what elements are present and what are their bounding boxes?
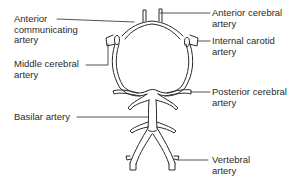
label-line: Posterior cerebral — [212, 87, 287, 98]
label-line: Basilar artery — [14, 112, 70, 123]
circle-ring — [112, 21, 192, 96]
vertebral-arteries — [126, 156, 179, 170]
label-anterior-communicating-artery: Anterior communicating artery — [14, 14, 78, 46]
label-basilar-artery: Basilar artery — [14, 112, 70, 123]
label-internal-carotid-artery: Internal carotid artery — [212, 36, 275, 57]
label-line: artery — [14, 70, 79, 81]
label-line: Anterior — [14, 14, 78, 25]
label-line: Vertebral — [212, 155, 250, 166]
internal-carotid-arteries — [106, 35, 198, 47]
label-line: Internal carotid — [212, 36, 275, 47]
label-line: artery — [212, 47, 275, 58]
circle-of-willis-diagram: Anterior communicating artery Middle cer… — [0, 0, 297, 188]
label-line: artery — [212, 166, 250, 177]
label-posterior-cerebral-artery: Posterior cerebral artery — [212, 87, 287, 108]
label-line: Middle cerebral — [14, 59, 79, 70]
label-line: artery — [212, 98, 287, 109]
label-middle-cerebral-artery: Middle cerebral artery — [14, 59, 79, 80]
leader-lines — [57, 13, 210, 160]
basilar-artery — [128, 94, 178, 164]
label-vertebral-artery: Vertebral artery — [212, 155, 250, 176]
label-line: artery — [212, 19, 282, 30]
label-line: artery — [14, 35, 78, 46]
label-line: Anterior cerebral — [212, 8, 282, 19]
anterior-cerebral-arteries — [143, 9, 162, 22]
label-anterior-cerebral-artery: Anterior cerebral artery — [212, 8, 282, 29]
